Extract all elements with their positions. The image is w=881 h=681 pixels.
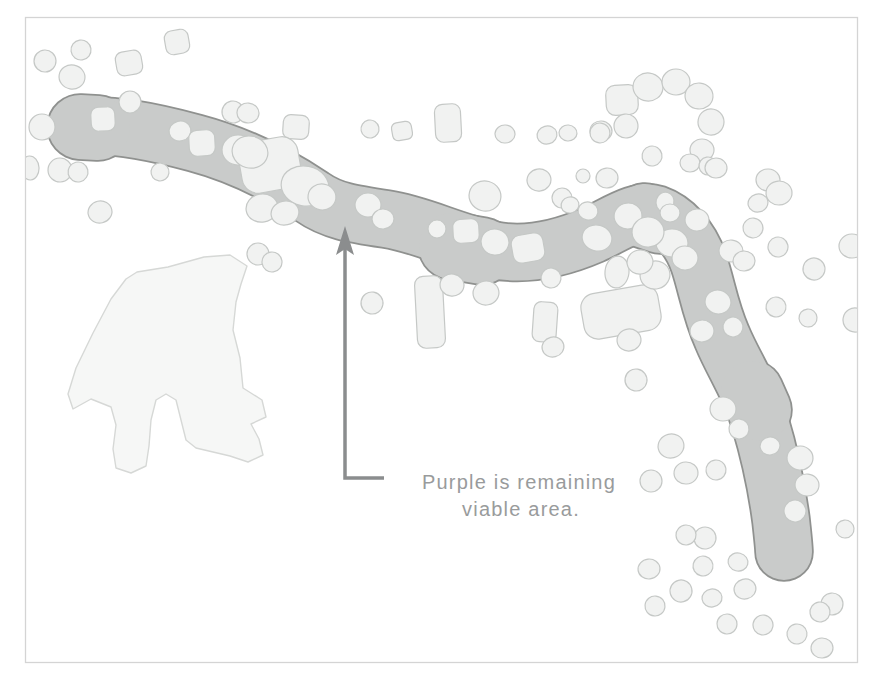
buffer-blob	[525, 167, 552, 192]
buffer-blob	[839, 234, 866, 259]
buffer-blob	[742, 217, 764, 239]
buffer-blob	[613, 113, 640, 140]
buffer-blob	[726, 551, 750, 573]
buffer-blob	[705, 158, 727, 178]
buffer-blob	[655, 431, 686, 461]
buffer-blob	[29, 114, 55, 140]
buffer-blob	[766, 235, 790, 259]
buffer-blob	[684, 208, 709, 231]
buffer-blob	[637, 558, 661, 580]
buffer-blob	[716, 613, 737, 634]
buffer-blob	[691, 554, 715, 578]
buffer-blob	[163, 28, 191, 56]
buffer-blob	[786, 445, 813, 470]
map-layers	[20, 28, 869, 658]
buffer-blob	[705, 459, 727, 481]
buffer-blob	[372, 209, 395, 230]
buffer-blob	[510, 231, 546, 264]
buffer-blob	[680, 154, 700, 172]
corridor-band	[452, 246, 482, 251]
buffer-blob	[764, 295, 788, 319]
open-space-parcel	[68, 255, 266, 473]
buffer-blob	[558, 124, 577, 141]
buffer-blob	[70, 39, 93, 62]
buffer-blob	[640, 144, 664, 168]
buffer-blob	[57, 63, 87, 91]
annotation-arrow	[336, 226, 384, 478]
corridor-band	[752, 392, 760, 410]
buffer-blob	[623, 367, 648, 392]
buffer-blob	[452, 218, 479, 243]
arrow-shaft	[345, 244, 384, 478]
buffer-blob	[282, 114, 310, 140]
buffer-blob	[701, 588, 723, 608]
buffer-blob	[576, 169, 590, 183]
buffer-blob	[732, 577, 758, 602]
buffer-blob	[20, 156, 39, 181]
buffer-blob	[119, 91, 141, 113]
annotation-line-1: Purple is remaining	[422, 471, 616, 493]
buffer-blob	[673, 461, 698, 484]
buffer-blob	[114, 49, 144, 77]
buffer-blob	[391, 120, 414, 141]
habitat-buffer-map: Purple is remaining viable area.	[0, 0, 881, 681]
buffer-blob	[595, 167, 619, 189]
buffer-blob	[494, 124, 515, 143]
buffer-blob	[660, 204, 680, 222]
buffer-blob	[672, 246, 699, 271]
buffer-blob	[785, 622, 808, 645]
buffer-blob	[801, 256, 828, 283]
buffer-blob	[710, 397, 736, 421]
buffer-blob	[668, 578, 695, 605]
buffer-blob	[90, 106, 115, 131]
buffer-blob	[359, 290, 384, 315]
buffer-blob	[675, 524, 696, 545]
buffer-blob	[466, 177, 505, 214]
buffer-blob	[640, 470, 662, 492]
buffer-blob	[34, 50, 57, 73]
buffer-blob	[752, 614, 775, 637]
scanned-figure: Purple is remaining viable area.	[0, 0, 881, 681]
buffer-blob	[811, 638, 834, 659]
buffer-blob	[86, 199, 114, 226]
buffer-blob	[434, 103, 462, 142]
buffer-blob	[696, 107, 727, 138]
buffer-blob	[535, 124, 559, 147]
buffer-blob	[733, 251, 756, 272]
buffer-blob	[835, 519, 855, 539]
buffer-blob	[644, 595, 666, 617]
buffer-blob	[188, 129, 215, 156]
buffer-blob	[359, 118, 380, 139]
buffer-blob	[428, 220, 446, 238]
annotation-line-2: viable area.	[462, 498, 580, 520]
buffer-blob	[798, 308, 818, 328]
buffer-blob	[841, 306, 870, 335]
